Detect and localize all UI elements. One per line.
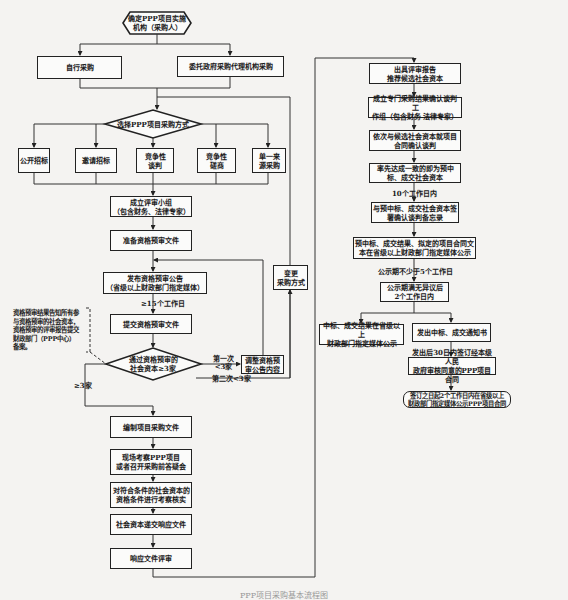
box-line2: 资格条件进行考察核实 xyxy=(116,495,186,504)
first-agreement-box: 率先达成一致的即为预中 标、成交社会资本 xyxy=(369,163,461,183)
adjust-notice-box: 调整资格预 审公告内容 xyxy=(241,355,284,374)
box-line1: 出具评审报告 xyxy=(394,65,436,74)
form-review-panel-box: 成立评审小组 （包含财务、法律专家） xyxy=(110,196,192,217)
notice-letter-box: 发出中标、成交通知书 xyxy=(412,323,491,342)
announce-result-box: 中标、成交结果在省级以上 财政部门指定媒体公示 xyxy=(319,324,404,345)
working-group-box: 成立专门采购结果确认谈判工 作组（包含财务 法律专家） xyxy=(368,97,462,118)
publish-prequal-notice-box: 发布资格预审公告 （省级以上财政部门指定媒体） xyxy=(103,272,207,294)
method-competitive-negotiation: 竞争性 谈判 xyxy=(136,148,174,173)
method-label-line2: 谈判 xyxy=(148,161,162,170)
box-line2: 财政部门指定媒体公示 xyxy=(327,339,397,348)
box-line2: （省级以上财政部门指定媒体） xyxy=(106,283,204,292)
method-label-line2: 源采购 xyxy=(259,161,280,170)
box-line1: 成立评审小组 xyxy=(130,198,172,207)
contract-negotiation-box: 依次与候选社会资本就项目 合同确认谈判 xyxy=(369,130,461,151)
box-line1: 签订之日起2个工作日内在省级以上 xyxy=(410,392,504,400)
box-line2: 审公告内容 xyxy=(245,365,280,374)
method-invited-tender: 邀请招标 xyxy=(75,148,117,173)
box-line1: 现场考察PPP项目 xyxy=(122,453,180,462)
site-visit-box: 现场考察PPP项目 或者召开采购前答疑会 xyxy=(110,449,192,475)
no-objection-box: 公示期满无异议后 2个工作日内 xyxy=(380,282,449,302)
submit-response-box: 社会资本递交响应文件 xyxy=(110,514,192,535)
box-line1: 率先达成一致的即为预中 xyxy=(377,164,454,173)
box-line1: 公示期满无异议后 xyxy=(387,283,443,292)
label-10-working-days: 10个工作日内 xyxy=(392,190,437,198)
box-line2: 本在省级以上财政部门指定媒体公示 xyxy=(359,248,471,257)
method-label-line2: 磋商 xyxy=(210,161,224,170)
publicize-prebid-box: 预中标、成交结果、拟定的项目合同文 本在省级以上财政部门指定媒体公示 xyxy=(353,237,476,259)
agency-procurement-box: 委托政府采购代理机构采购 xyxy=(177,56,284,77)
start-label-line1: 确定PPP项目实施 xyxy=(126,14,188,23)
self-procurement-label: 自行采购 xyxy=(66,63,94,72)
method-competitive-consultation: 竞争性 磋商 xyxy=(197,148,236,173)
review-report-box: 出具评审报告 推荐候选社会资本 xyxy=(369,63,461,84)
method-label: 邀请招标 xyxy=(82,156,110,165)
sign-memo-box: 与预中标、成交社会资本签 署确认谈判备忘录 xyxy=(371,202,459,223)
box-line2: 标、成交社会资本 xyxy=(387,173,443,182)
figure-caption: PPP项目采购基本流程图 xyxy=(0,589,568,600)
submit-prequal-docs-box: 提交资格预审文件 xyxy=(110,314,192,334)
change-method-box: 变更 采购方式 xyxy=(273,265,308,290)
box-label: 提交资格预审文件 xyxy=(123,320,179,329)
sign-contract-box: 发出后30日内签订经本级人民 政府审核同意的PPP项目合同 xyxy=(408,357,496,375)
box-line2: 作组（包含财务 法律专家） xyxy=(372,112,458,121)
box-line2: 2个工作日内 xyxy=(395,292,435,301)
method-single-source: 单一来 源采购 xyxy=(252,148,286,173)
box-line1: 调整资格预 xyxy=(245,356,280,365)
method-open-tender: 公开招标 xyxy=(18,148,50,173)
box-line1: 预中标、成交结果、拟定的项目合同文 xyxy=(355,239,474,248)
box-line1: 发布资格预审公告 xyxy=(127,274,183,283)
agency-procurement-label: 委托政府采购代理机构采购 xyxy=(189,62,273,71)
start-label-line2: 机构（采购人） xyxy=(126,23,188,32)
box-label: 准备资格预审文件 xyxy=(123,236,179,245)
method-label-line1: 竞争性 xyxy=(206,152,227,161)
compile-procurement-docs-box: 编制项目采购文件 xyxy=(110,416,192,438)
box-line2: 或者召开采购前答疑会 xyxy=(116,462,186,471)
prequal-result-note: 资格预审结果告知所有参与资格预审的社会资本，资格预审的评审报告提交财政部门（PP… xyxy=(13,309,81,352)
box-line1: 发出后30日内签订经本级人民 xyxy=(410,348,494,366)
label-ge3: ≥3家 xyxy=(74,382,92,390)
label-line2: <3家 xyxy=(213,363,234,371)
box-line1: 中标、成交结果在省级以上 xyxy=(321,321,402,339)
decision-line2: 社会资本≥3家 xyxy=(120,364,186,373)
label-15-working-days: ≥15个工作日 xyxy=(141,300,185,308)
method-label-line1: 竞争性 xyxy=(145,152,166,161)
label-first-lt3: 第一次 <3家 xyxy=(213,355,234,371)
box-label: 社会资本递交响应文件 xyxy=(116,520,186,529)
box-label: 编制项目采购文件 xyxy=(123,423,179,432)
label-second-lt3: 第二次<3家 xyxy=(212,375,251,383)
box-line2: 财政部门指定媒体公示PPP项目合同 xyxy=(408,400,506,408)
box-label: 响应文件评审 xyxy=(130,554,172,563)
box-line1: 成立专门采购结果确认谈判工 xyxy=(370,94,460,112)
method-label: 公开招标 xyxy=(20,156,48,165)
verify-qualifications-box: 对符合条件的社会资本的 资格条件进行考察核实 xyxy=(110,482,192,508)
publish-contract-end-node: 签订之日起2个工作日内在省级以上 财政部门指定媒体公示PPP项目合同 xyxy=(403,391,511,408)
decision-line1: 通过资格预审的 xyxy=(120,355,186,364)
box-line2: 政府审核同意的PPP项目合同 xyxy=(410,366,494,384)
method-decision: 选择PPP项目采购方式 xyxy=(110,120,196,129)
box-line1: 依次与候选社会资本就项目 xyxy=(373,132,457,141)
box-line1: 对符合条件的社会资本的 xyxy=(113,486,190,495)
box-line2: 采购方式 xyxy=(277,278,305,287)
method-label-line1: 单一来 xyxy=(259,152,280,161)
box-line2: 合同确认谈判 xyxy=(394,141,436,150)
review-response-box: 响应文件评审 xyxy=(110,548,192,569)
method-decision-label: 选择PPP项目采购方式 xyxy=(117,120,189,129)
self-procurement-box: 自行采购 xyxy=(37,56,122,79)
box-label: 发出中标、成交通知书 xyxy=(417,328,487,337)
start-node: 确定PPP项目实施 机构（采购人） xyxy=(126,14,188,32)
box-line1: 与预中标、成交社会资本签 xyxy=(373,204,457,213)
box-line2: （包含财务、法律专家） xyxy=(113,207,190,216)
prepare-prequal-docs-box: 准备资格预审文件 xyxy=(110,230,192,251)
box-line2: 推荐候选社会资本 xyxy=(387,74,443,83)
qualify-decision: 通过资格预审的 社会资本≥3家 xyxy=(120,355,186,373)
box-line1: 变更 xyxy=(284,269,298,278)
label-5-working-days: 公示期不少于5个工作日 xyxy=(378,268,453,276)
box-line2: 署确认谈判备忘录 xyxy=(387,213,443,222)
